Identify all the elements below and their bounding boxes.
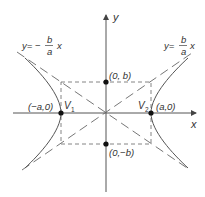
right-asymptote-label: y= b a x [163, 34, 196, 57]
svg-text:a: a [47, 46, 52, 57]
point-0-b-label: (0, b) [109, 70, 131, 81]
svg-text:y= −: y= − [21, 40, 41, 51]
svg-text:1: 1 [71, 106, 75, 113]
left-asymptote-label: y= − b a x [21, 34, 63, 57]
svg-text:x: x [189, 40, 196, 51]
vertex-v2-coord-label: (a,0) [156, 101, 176, 112]
vertex-v1-dot [58, 110, 63, 115]
svg-text:b: b [47, 34, 52, 45]
svg-text:2: 2 [145, 106, 149, 113]
y-axis-label: y [112, 11, 120, 23]
hyperbola-diagram: y x y= − b a x y= b a x (0, b) (0,−b) (−… [0, 0, 205, 197]
svg-text:b: b [181, 34, 186, 45]
svg-text:x: x [56, 40, 63, 51]
vertex-v1-name-label: V 1 [64, 100, 75, 113]
svg-text:a: a [181, 46, 186, 57]
vertex-v2-dot [148, 110, 153, 115]
vertex-v1-coord-label: (−a,0) [28, 101, 53, 112]
vertex-v2-name-label: V 2 [138, 100, 149, 113]
point-0-neg-b-label: (0,−b) [109, 147, 134, 158]
x-axis-label: x [190, 118, 197, 130]
point-0-b-dot [103, 79, 108, 84]
svg-text:y=: y= [163, 40, 175, 51]
point-0-neg-b-dot [103, 141, 108, 146]
